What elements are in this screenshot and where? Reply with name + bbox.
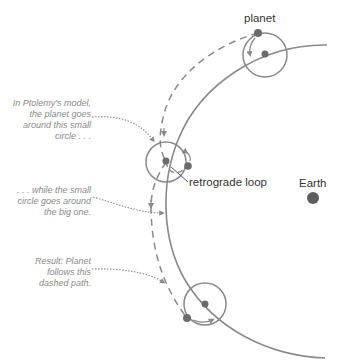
planet-dot-middle	[184, 162, 192, 170]
epicycle-bottom-center-dot	[202, 301, 209, 308]
leader-1	[92, 117, 153, 140]
epicycle-middle-center-dot	[163, 158, 170, 165]
epicycle-top-center-dot	[262, 51, 269, 58]
planet-dot-bottom	[183, 314, 191, 322]
retrograde-loop-label: retrograde loop	[189, 176, 267, 188]
note-deferent: . . . while the small circle goes around…	[17, 185, 91, 218]
note-result: Result: Planet follows this dashed path.	[35, 256, 91, 289]
deferent-circle	[166, 45, 327, 358]
planet-dot-top	[254, 29, 262, 37]
planet-label: planet	[244, 12, 275, 24]
ptolemy-epicycle-diagram: planet retrograde loop Earth In Ptolemy'…	[0, 0, 339, 362]
earth-label: Earth	[299, 177, 327, 189]
earth-dot	[307, 192, 319, 204]
note-epicycle: In Ptolemy's model, the planet goes arou…	[13, 98, 91, 142]
diagram-graphics	[0, 0, 339, 362]
leader-3	[92, 269, 163, 282]
